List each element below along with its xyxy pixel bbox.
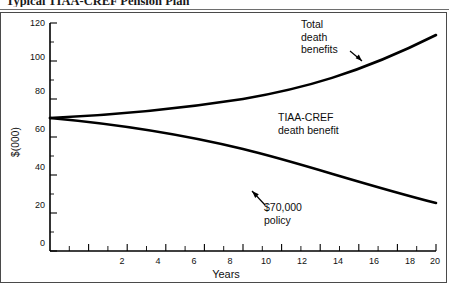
y-tick-label-60: 60 [19,125,45,134]
x-tick-label-12: 12 [292,257,312,266]
y-tick-label-0: 0 [19,239,45,248]
series-line-tiaa-cref-death-benefit [50,118,436,203]
y-tick-label-40: 40 [19,163,45,172]
horizontal-rule [0,9,449,10]
chart-figure: $(000) 120 100 80 60 40 20 0 2 4 6 8 10 … [0,12,447,283]
x-axis-title: Years [181,269,271,280]
x-tick-label-16: 16 [364,257,384,266]
x-tick-label-2: 2 [112,257,132,266]
chart-plot-area: $(000) 120 100 80 60 40 20 0 2 4 6 8 10 … [1,13,448,284]
x-tick-label-20: 20 [425,257,445,266]
y-tick-label-80: 80 [19,87,45,96]
y-axis-ticks [50,23,57,251]
annotation-arrow-total [350,51,362,61]
x-tick-label-4: 4 [148,257,168,266]
x-tick-label-8: 8 [220,257,240,266]
x-tick-label-6: 6 [184,257,204,266]
document-heading-text: Typical TIAA-CREF Pension Plan [6,0,306,7]
x-tick-label-14: 14 [328,257,348,266]
document-heading: Typical TIAA-CREF Pension Plan [6,0,306,7]
annotation-total-death-benefits: Total death benefits [301,18,338,56]
annotation-tiaa-cref-death-benefit: TIAA-CREF death benefit [278,111,339,136]
y-tick-label-120: 120 [19,19,45,28]
chart-svg [1,13,448,284]
y-tick-label-100: 100 [19,53,45,62]
series-line-total-death-benefits [50,35,436,118]
y-tick-label-20: 20 [19,201,45,210]
annotation-70000-policy: $70,000 policy [264,201,302,226]
x-tick-label-10: 10 [256,257,276,266]
x-tick-label-18: 18 [400,257,420,266]
y-axis-title: $(000) [11,116,21,168]
